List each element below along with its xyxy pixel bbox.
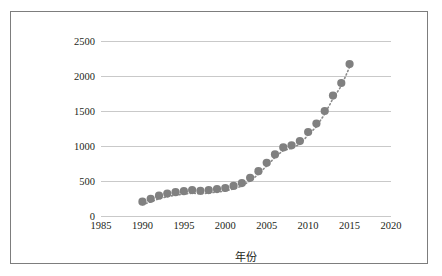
data-point	[304, 128, 312, 136]
data-point	[171, 188, 179, 196]
data-point	[213, 185, 221, 193]
data-point	[287, 141, 295, 149]
screenshot-root: 2500 2000 1500 1000 500 0 VOCs排放量（万t）	[0, 0, 442, 276]
data-point	[279, 143, 287, 151]
data-point	[263, 159, 271, 167]
data-point	[163, 190, 171, 198]
data-point	[321, 107, 329, 115]
x-axis-title: 年份	[101, 248, 391, 264]
x-tick-2000: 2000	[203, 220, 247, 232]
data-point	[138, 198, 146, 206]
trendline	[142, 67, 349, 205]
trendline-path	[142, 67, 349, 205]
data-point	[188, 186, 196, 194]
x-tick-2020: 2020	[369, 220, 413, 232]
y-axis-title-wrapper: VOCs排放量（万t）	[37, 44, 57, 214]
y-axis-title: VOCs排放量（万t）	[35, 0, 55, 44]
data-point	[271, 150, 279, 158]
data-point	[296, 137, 304, 145]
plot-area	[101, 41, 391, 216]
gridlines	[101, 42, 391, 217]
data-point	[221, 184, 229, 192]
x-tick-1990: 1990	[120, 220, 164, 232]
data-point	[329, 92, 337, 100]
data-point	[337, 79, 345, 87]
x-tick-1985: 1985	[79, 220, 123, 232]
chart-figure-frame: 2500 2000 1500 1000 500 0 VOCs排放量（万t）	[10, 11, 428, 264]
data-point	[238, 179, 246, 187]
x-tick-1995: 1995	[162, 220, 206, 232]
data-point	[246, 174, 254, 182]
data-point	[180, 187, 188, 195]
x-tick-2010: 2010	[286, 220, 330, 232]
x-tick-2005: 2005	[245, 220, 289, 232]
data-point	[229, 182, 237, 190]
data-point	[312, 120, 320, 128]
chart-canvas	[101, 41, 391, 217]
data-point	[196, 187, 204, 195]
data-point	[147, 195, 155, 203]
data-point	[155, 192, 163, 200]
x-tick-2015: 2015	[328, 220, 372, 232]
data-point	[205, 186, 213, 194]
data-point	[345, 60, 353, 68]
data-point	[254, 167, 262, 175]
x-axis-tick-labels: 1985 1990 1995 2000 2005 2010 2015 2020	[101, 220, 391, 236]
